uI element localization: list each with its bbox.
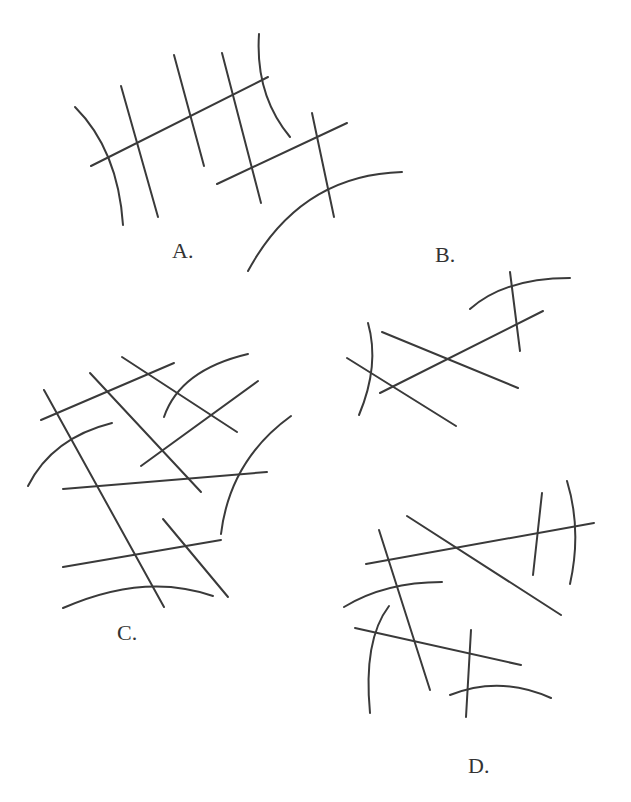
panel-d-line-9	[466, 630, 471, 717]
panel-b: B.	[347, 242, 570, 426]
panel-a-line-8	[217, 123, 347, 184]
panel-a-arc-9	[248, 172, 402, 271]
figure-canvas: A. B. C. D.	[0, 0, 631, 802]
panel-b-arc-1	[470, 278, 570, 309]
panel-b-line-3	[380, 311, 543, 393]
panel-a-line-5	[91, 77, 268, 166]
panel-c-arc-12	[63, 586, 213, 608]
panel-d: D.	[344, 481, 594, 778]
panel-a-arc-1	[75, 107, 123, 225]
panel-a: A.	[75, 34, 402, 271]
panel-d-line-8	[355, 628, 521, 665]
panel-c-label: C.	[117, 620, 137, 645]
panel-c-line-1	[44, 390, 164, 607]
panel-b-line-6	[347, 358, 456, 426]
panel-c-line-10	[163, 519, 228, 597]
panel-a-line-2	[121, 86, 158, 217]
panel-d-arc-10	[450, 686, 551, 698]
panel-b-line-4	[382, 332, 518, 388]
panel-c-line-6	[141, 381, 258, 466]
panel-a-label: A.	[172, 238, 193, 263]
panel-d-arc-6	[344, 582, 442, 607]
panel-d-arc-4	[567, 481, 575, 584]
panel-a-line-7	[312, 113, 334, 217]
panel-c-arc-4	[164, 354, 248, 417]
panel-c-arc-7	[28, 423, 112, 486]
panel-d-label: D.	[468, 753, 489, 778]
panel-d-line-2	[366, 523, 594, 564]
panel-b-label: B.	[435, 242, 455, 267]
panel-c-line-5	[90, 373, 201, 492]
panel-a-line-4	[222, 53, 261, 203]
panel-a-arc-6	[259, 34, 290, 137]
panel-c: C.	[28, 354, 291, 645]
panel-d-arc-7	[369, 606, 389, 713]
panel-c-line-11	[63, 540, 221, 567]
panel-c-line-3	[122, 357, 237, 432]
